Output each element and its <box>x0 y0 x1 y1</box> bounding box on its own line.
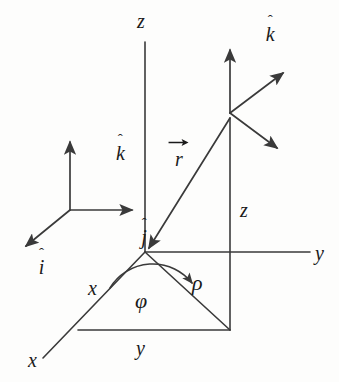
phi-label: φ <box>135 290 147 312</box>
rho-hat-arrow <box>230 113 277 148</box>
x-axis-upper-label: x <box>88 278 97 298</box>
k-hat-cartesian-label: ˆ k <box>116 143 125 163</box>
z-axis-label: z <box>137 11 145 31</box>
rho-label: ρ <box>192 272 203 294</box>
y-projection-label: y <box>136 338 145 358</box>
y-axis-label: y <box>315 243 324 263</box>
x-axis-line <box>43 252 145 358</box>
vector-arrow-overline-icon <box>167 138 189 147</box>
z-height-label: z <box>240 200 248 220</box>
r-vector-letter: r <box>175 148 183 170</box>
i-hat-arrow <box>26 210 70 246</box>
hat-accent-icon: ˆ <box>268 13 273 28</box>
hat-accent-icon: ˆ <box>39 246 44 261</box>
figure-linework <box>0 0 339 382</box>
r-vector-label: r <box>175 149 183 169</box>
cylindrical-coordinates-figure: z y x x y z ρ φ r ˆ i ˆ j ˆ k ˆ k ˆ <box>0 0 339 382</box>
i-hat-label: ˆ i <box>39 257 45 277</box>
r-vector-line <box>149 118 230 248</box>
k-hat-cylindrical-label: ˆ k <box>266 24 275 44</box>
phi-hat-arrow <box>230 73 283 113</box>
x-axis-lower-label: x <box>28 350 37 370</box>
hat-accent-icon: ˆ <box>142 216 147 231</box>
hat-accent-icon: ˆ <box>118 132 123 147</box>
j-hat-label: ˆ j <box>141 227 147 247</box>
